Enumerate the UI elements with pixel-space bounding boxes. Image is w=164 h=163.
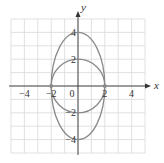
y-tick-label: 4 <box>71 27 76 38</box>
x-tick-label: −4 <box>19 88 30 99</box>
chart-svg: xy −4−202442−2−4 <box>0 0 164 163</box>
x-tick-label: −2 <box>46 88 57 99</box>
y-tick-label: −2 <box>65 107 76 118</box>
y-tick-label: 2 <box>71 54 76 65</box>
x-axis-arrow-icon <box>145 84 151 89</box>
x-axis-label: x <box>153 79 159 91</box>
axes: xy <box>9 1 159 155</box>
x-tick-label: 4 <box>129 88 134 99</box>
x-tick-label: 2 <box>102 88 107 99</box>
y-tick-label: −4 <box>65 134 76 145</box>
x-tick-label: 0 <box>70 88 75 99</box>
y-axis-arrow-icon <box>76 11 81 17</box>
y-axis-label: y <box>80 1 86 13</box>
